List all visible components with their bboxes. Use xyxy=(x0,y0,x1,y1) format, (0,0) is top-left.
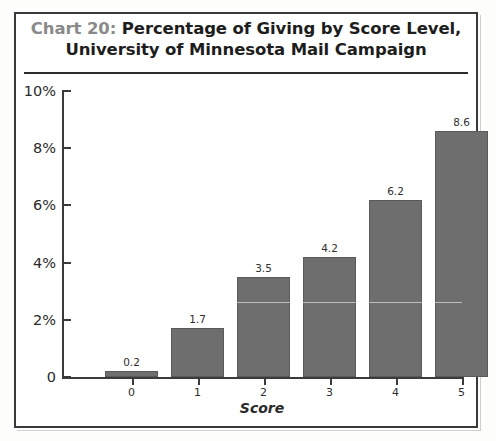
bar xyxy=(237,277,290,377)
y-axis-tick xyxy=(62,204,71,206)
y-axis-tick-label: 2% xyxy=(10,312,56,328)
plot-area: 02%4%6%8%10% 0.21.73.54.26.28.6 012345 S… xyxy=(0,0,496,441)
y-axis-tick-label: 6% xyxy=(10,197,56,213)
x-axis-tick xyxy=(132,377,134,385)
bar-value-label: 8.6 xyxy=(453,116,470,128)
bar xyxy=(171,328,224,377)
bar-value-label: 6.2 xyxy=(387,185,404,197)
x-axis-tick-label: 4 xyxy=(392,386,399,399)
y-axis-tick-label: 8% xyxy=(10,140,56,156)
chart-page: Chart 20: Percentage of Giving by Score … xyxy=(0,0,496,441)
y-axis-line xyxy=(62,91,64,378)
x-axis-tick xyxy=(330,377,332,385)
bar xyxy=(435,131,488,377)
bar-value-label: 3.5 xyxy=(255,262,272,274)
bar-value-label: 0.2 xyxy=(123,356,140,368)
x-axis-tick xyxy=(462,377,464,385)
x-axis-tick-label: 0 xyxy=(128,386,135,399)
x-axis-tick-label: 1 xyxy=(194,386,201,399)
x-axis-tick-label: 2 xyxy=(260,386,267,399)
x-axis-line xyxy=(62,377,462,379)
bar-value-label: 4.2 xyxy=(321,242,338,254)
y-axis-tick xyxy=(62,147,71,149)
x-axis-tick-label: 3 xyxy=(326,386,333,399)
x-axis-tick xyxy=(264,377,266,385)
bar-value-label: 1.7 xyxy=(189,313,206,325)
y-axis-tick xyxy=(62,376,71,378)
y-axis-tick-label: 4% xyxy=(10,255,56,271)
x-axis-tick xyxy=(396,377,398,385)
x-axis-tick xyxy=(198,377,200,385)
bar xyxy=(303,257,356,377)
y-axis-tick-label: 10% xyxy=(10,83,56,99)
y-axis-tick xyxy=(62,319,71,321)
x-axis-tick-label: 5 xyxy=(458,386,465,399)
y-axis-tick xyxy=(62,262,71,264)
y-axis-tick xyxy=(62,90,71,92)
x-axis-title: Score xyxy=(62,400,462,416)
y-axis-tick-label: 0 xyxy=(10,369,56,385)
bar xyxy=(369,200,422,377)
